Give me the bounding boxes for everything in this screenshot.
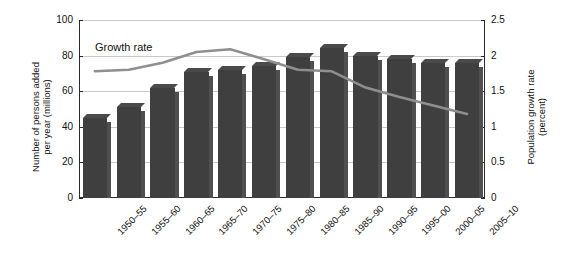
y2-tick-label-1: 1 [491, 121, 521, 132]
x-tick-label-1960–65: 1960–65 [182, 203, 216, 237]
x-tick-label-1995–00: 1995–00 [419, 203, 453, 237]
growth-rate-annotation: Growth rate [95, 41, 152, 53]
y2-tick-label-2.5: 2.5 [491, 14, 521, 25]
y-tick-label-100: 100 [47, 14, 73, 25]
y2-tick-label-0.5: 0.5 [491, 156, 521, 167]
y2-tickmark [481, 198, 485, 199]
y-tick-label-60: 60 [47, 85, 73, 96]
x-tick-label-1970–75: 1970–75 [250, 203, 284, 237]
x-tick-label-1955–60: 1955–60 [149, 203, 183, 237]
population-growth-chart: Number of persons added per year (millio… [0, 0, 569, 255]
y2-tick-label-0: 0 [491, 192, 521, 203]
x-tick-label-1980–85: 1980–85 [318, 203, 352, 237]
y-tick-label-20: 20 [47, 156, 73, 167]
x-tick-label-1975–80: 1975–80 [284, 203, 318, 237]
x-tick-label-1985–90: 1985–90 [352, 203, 386, 237]
y-tickmark [79, 198, 83, 199]
x-tick-label-1990–95: 1990–95 [385, 203, 419, 237]
x-tick-label-2000–05: 2000–05 [453, 203, 487, 237]
y-axis-title: Number of persons added per year (millio… [30, 37, 52, 197]
y2-axis-title: Population growth rate (percent) [525, 37, 547, 197]
y-tick-label-80: 80 [47, 50, 73, 61]
y-tick-label-0: 0 [47, 192, 73, 203]
y2-tick-label-1.5: 1.5 [491, 85, 521, 96]
x-tick-label-1965–70: 1965–70 [216, 203, 250, 237]
x-tick-label-1950–55: 1950–55 [115, 203, 149, 237]
x-tick-label-2005–10: 2005–10 [487, 203, 521, 237]
y2-tick-label-2: 2 [491, 50, 521, 61]
y-tick-label-40: 40 [47, 121, 73, 132]
